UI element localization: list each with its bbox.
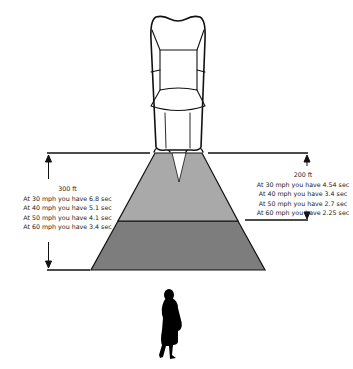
car-top-view-icon — [151, 16, 205, 152]
right-distance: 200 ft — [255, 170, 351, 180]
left-distance-label: 300 ft At 30 mph you have 6.8 sec At 40 … — [19, 184, 116, 232]
far-headlight-zone — [91, 221, 265, 270]
right-time-30mph: At 30 mph you have 4.54 sec — [255, 180, 351, 190]
right-time-50mph: At 50 mph you have 2.7 sec — [255, 199, 351, 209]
right-distance-label: 200 ft At 30 mph you have 4.54 sec At 40… — [255, 170, 351, 218]
left-time-40mph: At 40 mph you have 5.1 sec — [19, 203, 116, 213]
left-time-50mph: At 50 mph you have 4.1 sec — [19, 213, 116, 223]
left-time-30mph: At 30 mph you have 6.8 sec — [19, 194, 116, 204]
right-time-60mph: At 60 mph you have 2.25 sec — [255, 208, 351, 218]
pedestrian-silhouette-icon — [159, 289, 182, 359]
left-distance: 300 ft — [19, 184, 116, 194]
left-time-60mph: At 60 mph you have 3.4 sec — [19, 222, 116, 232]
headlight-visibility-diagram: 300 ft At 30 mph you have 6.8 sec At 40 … — [0, 0, 353, 369]
right-time-40mph: At 40 mph you have 3.4 sec — [255, 189, 351, 199]
